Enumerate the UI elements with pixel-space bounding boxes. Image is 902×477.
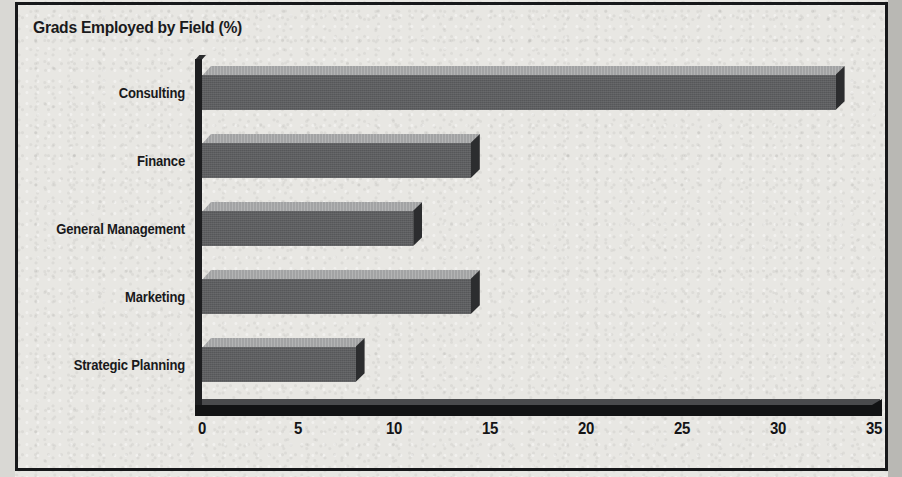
bar-general-management: [202, 202, 413, 246]
y-axis-wall-face: [195, 59, 202, 415]
x-tick-label-15: 15: [482, 419, 498, 439]
x-tick-label-20: 20: [578, 419, 594, 439]
category-label-finance: Finance: [23, 153, 185, 169]
x-tick-label-25: 25: [674, 419, 690, 439]
x-axis-baseline-face: [195, 405, 880, 416]
x-tick-label-0: 0: [198, 419, 206, 439]
category-label-marketing: Marketing: [23, 289, 185, 305]
x-tick-label-10: 10: [386, 419, 402, 439]
plot-area: ConsultingFinanceGeneral ManagementMarke…: [0, 0, 902, 477]
x-tick-label-5: 5: [294, 419, 302, 439]
bar-front-face: [202, 347, 356, 382]
bar-strategic-planning: [202, 338, 356, 382]
category-label-general-management: General Management: [23, 221, 185, 237]
bar-front-face: [202, 279, 471, 314]
chart-page: Grads Employed by Field (%) ConsultingFi…: [0, 0, 902, 477]
bar-front-face: [202, 75, 836, 110]
bar-front-face: [202, 143, 471, 178]
bar-finance: [202, 134, 471, 178]
x-tick-label-30: 30: [770, 419, 786, 439]
category-label-strategic-planning: Strategic Planning: [23, 357, 185, 373]
x-tick-label-35: 35: [866, 419, 882, 439]
bar-front-face: [202, 211, 413, 246]
bar-marketing: [202, 270, 471, 314]
bar-consulting: [202, 66, 836, 110]
category-label-consulting: Consulting: [23, 85, 185, 101]
